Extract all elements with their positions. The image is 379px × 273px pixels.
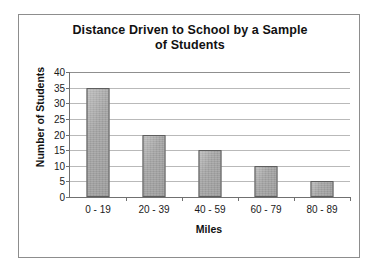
x-tick-mark: [182, 197, 183, 201]
x-tick-mark: [126, 197, 127, 201]
x-tick-mark: [350, 197, 351, 201]
y-tick-label: 40: [54, 67, 65, 78]
bar-slot: [238, 72, 294, 197]
x-axis-title: Miles: [69, 223, 349, 235]
bar: [255, 166, 278, 197]
x-tick-label: 0 - 19: [85, 204, 111, 215]
bar: [87, 88, 110, 197]
bar: [311, 181, 334, 197]
bar-slot: [126, 72, 182, 197]
x-tick-label: 80 - 89: [306, 204, 337, 215]
y-axis-title: Number of Students: [34, 57, 46, 177]
y-tick-mark: [66, 197, 70, 198]
y-tick-label: 25: [54, 113, 65, 124]
y-tick-label: 0: [59, 192, 65, 203]
y-tick-label: 35: [54, 82, 65, 93]
chart-title: Distance Driven to School by a Sample of…: [33, 23, 347, 53]
chart-title-line-1: Distance Driven to School by a Sample: [72, 23, 307, 37]
plot-area: 0510152025303540 0 - 1920 - 3940 - 5960 …: [69, 72, 350, 198]
bar-slot: [294, 72, 350, 197]
bar-series: [70, 72, 350, 197]
y-tick-label: 30: [54, 98, 65, 109]
bar-slot: [70, 72, 126, 197]
y-tick-label: 20: [54, 129, 65, 140]
y-tick-label: 10: [54, 160, 65, 171]
chart-title-line-2: of Students: [155, 38, 225, 52]
x-tick-mark: [294, 197, 295, 201]
x-tick-label: 40 - 59: [194, 204, 225, 215]
bar: [143, 135, 166, 198]
bar-slot: [182, 72, 238, 197]
y-tick-label: 5: [59, 176, 65, 187]
x-tick-label: 60 - 79: [250, 204, 281, 215]
x-tick-label: 20 - 39: [138, 204, 169, 215]
x-tick-mark: [238, 197, 239, 201]
bar: [199, 150, 222, 197]
y-tick-label: 15: [54, 145, 65, 156]
chart-frame: Distance Driven to School by a Sample of…: [18, 14, 360, 258]
